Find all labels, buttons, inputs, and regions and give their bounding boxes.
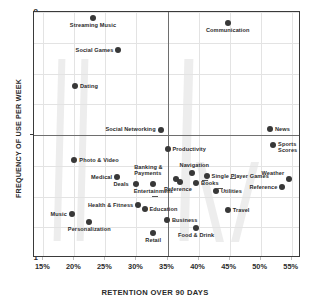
data-point[interactable] (90, 15, 96, 21)
data-point-label: Business (172, 216, 198, 222)
scatter-chart: FREQUENCY OF USE PER WEEK RETENTION OVER… (0, 0, 310, 307)
data-point-label: Sports Scores (278, 140, 300, 153)
data-point[interactable] (71, 157, 77, 163)
gridline-horizontal (34, 12, 299, 13)
data-point-label: Streaming Music (70, 22, 116, 28)
x-tick-label: 55% (283, 262, 298, 271)
x-tick-label: 50% (252, 262, 267, 271)
data-point-label: Reference (164, 186, 192, 192)
data-point-label: Education (150, 206, 178, 212)
plot-area: Streaming MusicCommunicationSocial Games… (33, 11, 300, 257)
x-tick-label: 40% (190, 262, 205, 271)
data-point[interactable] (150, 181, 156, 187)
data-point[interactable] (204, 173, 210, 179)
x-tick-label: 35% (159, 262, 174, 271)
data-point[interactable] (150, 230, 156, 236)
data-point[interactable] (133, 181, 139, 187)
data-point-label: Single Player Games (212, 172, 269, 178)
gridline-horizontal (34, 74, 299, 75)
x-tick-mark (229, 257, 230, 260)
x-axis-title: RETENTION OVER 90 DAYS (0, 288, 310, 297)
x-tick-mark (42, 257, 43, 260)
data-point-label: Social Networking (105, 126, 155, 132)
x-tick-label: 30% (128, 262, 143, 271)
data-point[interactable] (142, 206, 148, 212)
label-leader-line (217, 188, 223, 189)
gridline-vertical (261, 12, 262, 256)
x-tick-label: 15% (35, 262, 50, 271)
data-point[interactable] (267, 126, 273, 132)
x-tick-label: 25% (97, 262, 112, 271)
data-point[interactable] (270, 142, 276, 148)
data-point[interactable] (286, 176, 292, 182)
gridline-horizontal (34, 43, 299, 44)
data-point[interactable] (86, 219, 92, 225)
data-point-label: Travel (233, 207, 250, 213)
clipped-chart-title (0, 0, 310, 3)
data-point-label: Navigation (180, 162, 210, 168)
label-leader-line (202, 180, 208, 181)
gridline-horizontal (34, 166, 299, 167)
gridline-vertical (136, 12, 137, 256)
data-point-label: Reference (249, 183, 277, 189)
data-point[interactable] (165, 146, 171, 152)
x-tick-mark (167, 257, 168, 260)
data-point-label: Food & Drink (178, 232, 214, 238)
data-point-label: News (275, 126, 290, 132)
data-point-label: Medical (91, 174, 112, 180)
data-point[interactable] (225, 20, 231, 26)
x-tick-label: 20% (66, 262, 81, 271)
x-tick-mark (291, 257, 292, 260)
data-point-label: Music (51, 211, 67, 217)
gridline-vertical (43, 12, 44, 256)
x-tick-mark (73, 257, 74, 260)
label-leader-line (230, 178, 236, 179)
data-point[interactable] (135, 202, 141, 208)
gridline-horizontal (34, 197, 299, 198)
data-point-label: Retail (145, 237, 161, 243)
y-axis-title: FREQUENCY OF USE PER WEEK (14, 69, 23, 209)
data-point-label: Social Games (76, 46, 114, 52)
data-point-label: Deals (113, 180, 128, 186)
gridline-vertical (199, 12, 200, 256)
data-point-label: Communication (206, 27, 250, 33)
data-point[interactable] (158, 127, 164, 133)
data-point-label: Health & Fitness (88, 202, 133, 208)
label-leader-line (152, 196, 158, 197)
data-point[interactable] (72, 83, 78, 89)
data-point-label: Utilities (221, 188, 242, 194)
data-point[interactable] (164, 217, 170, 223)
data-point[interactable] (279, 184, 285, 190)
x-tick-mark (104, 257, 105, 260)
data-point-label: Banking & Payments (134, 163, 164, 176)
gridline-vertical (230, 12, 231, 256)
x-tick-mark (198, 257, 199, 260)
gridline-vertical (292, 12, 293, 256)
data-point-label: Photo & Video (79, 157, 118, 163)
x-tick-mark (135, 257, 136, 260)
x-tick-mark (260, 257, 261, 260)
x-tick-label: 45% (221, 262, 236, 271)
data-point[interactable] (115, 47, 121, 53)
data-point-label: Weather (262, 169, 285, 175)
data-point[interactable] (189, 170, 195, 176)
data-point-label: Dating (80, 83, 98, 89)
data-point[interactable] (177, 179, 183, 185)
gridline-horizontal (34, 104, 299, 105)
data-point-label: Productivity (173, 146, 207, 152)
data-point-label: Personalization (68, 226, 111, 232)
data-point[interactable] (193, 180, 199, 186)
quadrant-line-horizontal (34, 135, 299, 136)
